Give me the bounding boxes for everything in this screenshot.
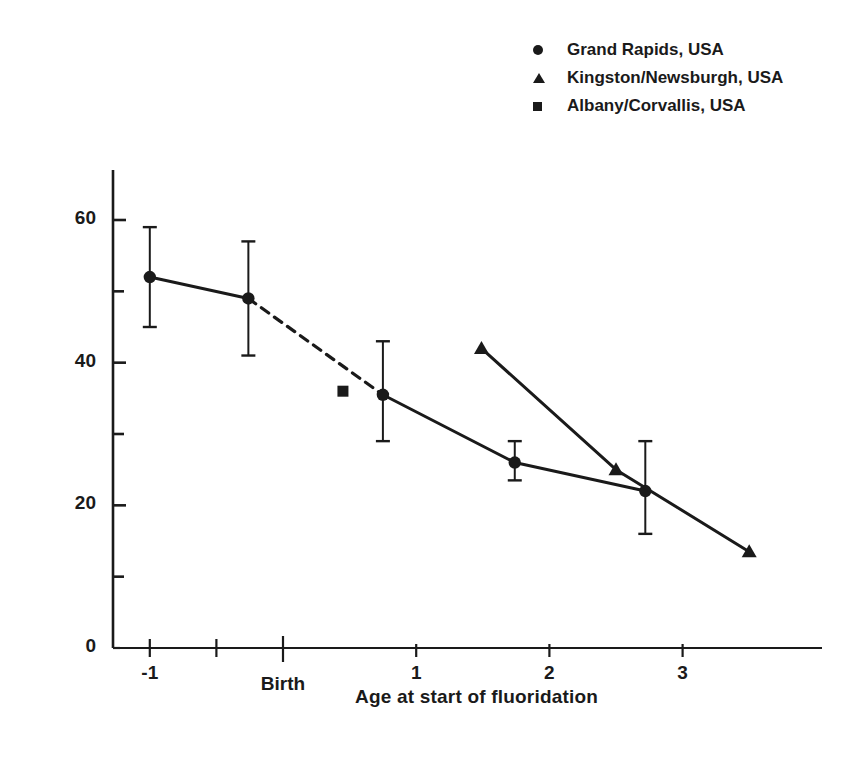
data-point-circle <box>242 292 254 304</box>
legend-label: Kingston/Newsburgh, USA <box>559 68 783 88</box>
data-point-circle <box>509 456 521 468</box>
data-point-triangle <box>742 544 757 557</box>
series-line-segment <box>150 277 249 298</box>
legend-item-grand-rapids: Grand Rapids, USA <box>533 36 863 64</box>
x-tick-label: 1 <box>356 662 476 684</box>
circle-marker-icon <box>533 45 559 55</box>
series-line-segment <box>383 395 515 463</box>
square-marker-icon <box>533 102 559 111</box>
data-point-circle <box>377 389 389 401</box>
x-tick-label: -1 <box>90 662 210 684</box>
series-line-segment <box>481 348 616 469</box>
y-tick-label: 40 <box>26 350 96 372</box>
y-tick-label: 0 <box>26 635 96 657</box>
y-tick-label: 20 <box>26 492 96 514</box>
x-tick-label: 3 <box>623 662 743 684</box>
triangle-marker-icon <box>533 73 559 83</box>
data-point-square <box>337 386 348 397</box>
x-axis-title: Age at start of fluoridation <box>355 686 598 708</box>
legend-item-kingston-newsburgh: Kingston/Newsburgh, USA <box>533 64 863 92</box>
chart-legend: Grand Rapids, USA Kingston/Newsburgh, US… <box>533 36 863 120</box>
y-tick-label: 60 <box>26 207 96 229</box>
x-tick-label: Birth <box>223 673 343 695</box>
data-point-triangle <box>474 341 489 354</box>
legend-label: Grand Rapids, USA <box>559 40 724 60</box>
legend-label: Albany/Corvallis, USA <box>559 96 746 116</box>
series-line-segment <box>616 470 749 552</box>
x-tick-label: 2 <box>489 662 609 684</box>
chart-figure: per cent inhibition def deciduous Age at… <box>0 0 863 760</box>
data-point-circle <box>144 271 156 283</box>
chart-axes <box>113 170 822 662</box>
legend-item-albany-corvallis: Albany/Corvallis, USA <box>533 92 863 120</box>
series-line-segment <box>248 298 383 394</box>
chart-series <box>143 227 757 557</box>
